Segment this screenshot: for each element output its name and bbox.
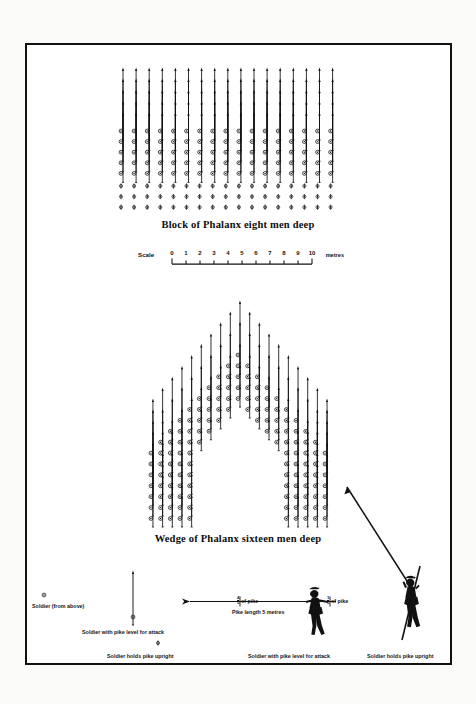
legend-soldier-pike-upright-label: Soldier holds pike upright xyxy=(107,653,174,659)
legend-soldier-from-above-label: Soldier (from above) xyxy=(32,603,84,609)
figure-pike-level-label: Soldier with pike level for attack xyxy=(248,653,330,659)
fraction-front-of-pike: 45 of pike xyxy=(237,596,258,604)
frac-front-denominator: 5 xyxy=(237,600,239,605)
block-caption: Block of Phalanx eight men deep xyxy=(0,219,476,230)
scale-tick: 2 xyxy=(198,250,201,256)
scale-tick: 6 xyxy=(254,250,257,256)
scale-tick: 3 xyxy=(212,250,215,256)
scale-bar: Scale metres 012345678910 xyxy=(140,250,340,272)
fraction-rear-of-pike: 15 of pike xyxy=(327,596,348,604)
scale-tick: 0 xyxy=(170,250,173,256)
scale-tick: 8 xyxy=(282,250,285,256)
plate-border xyxy=(25,43,452,665)
wedge-caption: Wedge of Phalanx sixteen men deep xyxy=(0,533,476,544)
frac-rear-text: of pike xyxy=(331,598,348,604)
scale-label: Scale xyxy=(138,251,154,258)
legend-soldier-pike-level-label: Soldier with pike level for attack xyxy=(82,629,164,635)
frac-rear-denominator: 5 xyxy=(327,600,329,605)
scale-tick: 4 xyxy=(226,250,229,256)
frac-front-text: of pike xyxy=(241,598,258,604)
scale-tick: 7 xyxy=(268,250,271,256)
scale-tick: 1 xyxy=(184,250,187,256)
page-background: Block of Phalanx eight men deep Wedge of… xyxy=(0,0,476,704)
pike-length-label: Pike length 5 metres xyxy=(232,609,284,615)
scale-tick: 5 xyxy=(240,250,243,256)
scale-unit: metres xyxy=(326,252,344,258)
figure-pike-upright-label: Soldier holds pike upright xyxy=(367,653,434,659)
scale-tick: 10 xyxy=(309,250,316,256)
scale-tick: 9 xyxy=(296,250,299,256)
